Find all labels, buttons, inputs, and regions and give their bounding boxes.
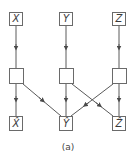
node-z-mid [112, 68, 127, 84]
node-z-label: Z [116, 14, 123, 24]
node-y-label: Y [63, 14, 69, 24]
node-z-hat: Ẑ [112, 116, 126, 131]
node-z: Z [112, 12, 126, 26]
node-y-hat-label: Ŷ [63, 119, 69, 129]
node-y-mid [59, 68, 74, 84]
diagram-caption: (a) [56, 142, 80, 152]
node-y: Y [59, 12, 73, 26]
node-x-hat-label: X̂ [13, 119, 20, 129]
node-z-hat-label: Ẑ [116, 119, 123, 129]
node-x-label: X [13, 14, 20, 24]
node-x: X [9, 12, 23, 26]
node-x-mid [9, 68, 24, 84]
node-y-hat: Ŷ [59, 116, 73, 131]
node-x-hat: X̂ [9, 116, 23, 131]
